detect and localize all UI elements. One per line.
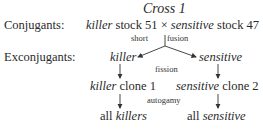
arrow-to-sensitive — [165, 46, 196, 57]
arrow-to-killer — [138, 46, 165, 57]
diagram-arrows — [0, 0, 263, 129]
